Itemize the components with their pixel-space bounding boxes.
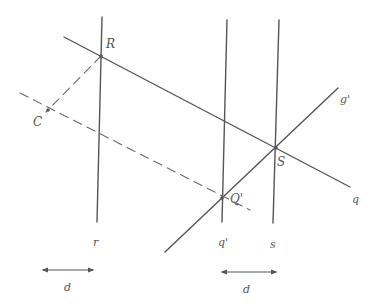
line-q [64, 37, 350, 187]
line-r [97, 17, 102, 222]
dimension-label-d-right: d [243, 283, 250, 296]
point-label-Q1: Q' [230, 192, 243, 206]
point-label-S: S [277, 155, 285, 169]
geometry-diagram: rq'sqg'ddRCSQ' [0, 0, 376, 304]
line-g-prime [165, 88, 338, 252]
line-label-q: q [352, 193, 359, 206]
line-label-q-prime: q' [218, 236, 228, 249]
point-label-C: C [33, 115, 42, 129]
line-dash-RC [46, 56, 101, 112]
point-R [99, 54, 103, 58]
point-label-R: R [105, 37, 115, 51]
point-Q1 [220, 196, 224, 200]
point-S [274, 146, 278, 150]
line-s [273, 20, 279, 223]
line-label-r: r [93, 236, 99, 249]
lines-layer [20, 17, 350, 252]
line-dash-main [20, 93, 250, 210]
point-C [46, 108, 50, 112]
dimension-label-d-left: d [64, 281, 71, 294]
line-label-g-prime: g' [340, 93, 350, 106]
line-label-s: s [270, 238, 276, 251]
dimensions-layer [43, 270, 276, 272]
